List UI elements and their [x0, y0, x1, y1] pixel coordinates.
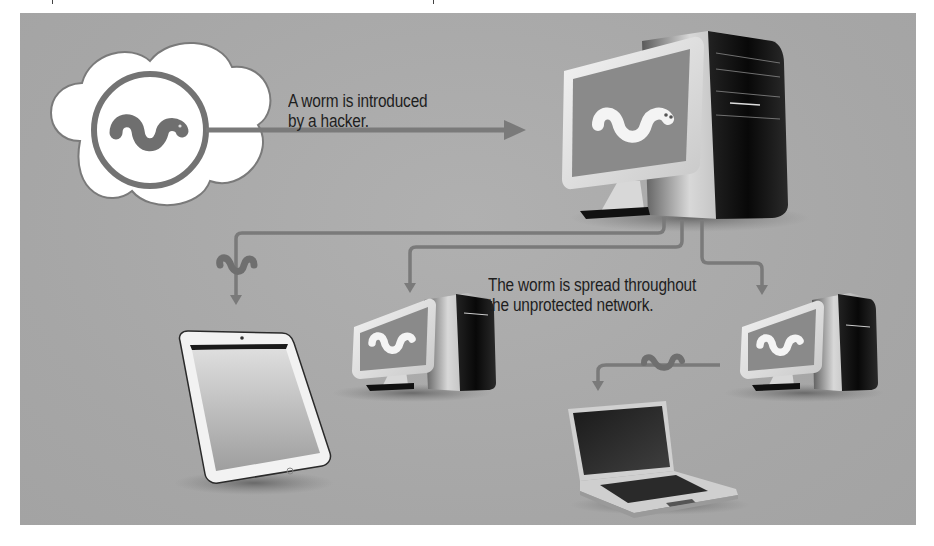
- crop-tick-right: [433, 0, 434, 4]
- hacker-cloud: [51, 43, 270, 205]
- caption-line: the unprotected network.: [488, 295, 696, 315]
- tablet: [174, 331, 334, 495]
- diagram-panel: A worm is introduced by a hacker. The wo…: [20, 13, 916, 525]
- caption-worm-introduced: A worm is introduced by a hacker.: [288, 91, 427, 131]
- caption-line: by a hacker.: [288, 111, 427, 131]
- desktop-3: [724, 293, 884, 402]
- caption-line: The worm is spread throughout: [488, 275, 696, 295]
- caption-worm-spread: The worm is spread throughout the unprot…: [488, 275, 696, 315]
- laptop: [568, 401, 750, 518]
- caption-line: A worm is introduced: [288, 91, 427, 111]
- main-computer: [562, 31, 810, 232]
- desktop-2: [332, 293, 496, 402]
- crop-tick-left: [52, 0, 53, 4]
